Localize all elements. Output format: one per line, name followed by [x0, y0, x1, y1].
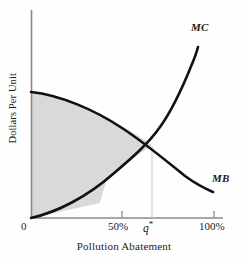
x-axis-label: Pollution Abatement [31, 241, 217, 252]
y-axis-label: Dollars Per Unit [8, 65, 19, 151]
x-tick-label-50: 50% [108, 221, 128, 232]
q-star-label: q* [143, 220, 153, 234]
x-tick-label-100: 100% [199, 221, 225, 232]
q-star-superscript: * [149, 219, 154, 229]
mb-curve-label: MB [212, 173, 230, 184]
pollution-abatement-chart: Dollars Per Unit Pollution Abatement 0 5… [0, 0, 247, 263]
x-tick-label-0: 0 [21, 221, 27, 232]
mc-curve-label: MC [191, 22, 209, 33]
